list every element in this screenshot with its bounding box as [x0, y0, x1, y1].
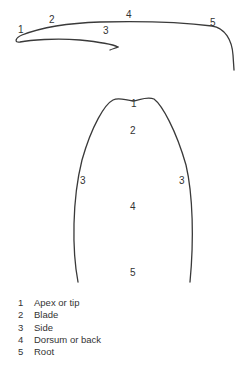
side-label-5: 5 — [210, 17, 216, 28]
top-view: 1 2 3 3 4 5 — [74, 98, 192, 282]
legend-item-dorsum: 4 Dorsum or back — [18, 334, 101, 346]
legend-item-blade: 2 Blade — [18, 309, 101, 321]
side-profile-tip-notch — [110, 47, 118, 50]
legend: 1 Apex or tip 2 Blade 3 Side 4 Dorsum or… — [18, 297, 101, 358]
side-label-3: 3 — [103, 25, 109, 36]
legend-label: Root — [34, 346, 54, 358]
side-view: 1 2 3 4 5 — [16, 9, 234, 70]
legend-label: Side — [34, 322, 53, 334]
top-label-2: 2 — [130, 125, 136, 136]
side-label-2: 2 — [49, 14, 55, 25]
legend-item-root: 5 Root — [18, 346, 101, 358]
side-label-4: 4 — [126, 9, 132, 20]
legend-label: Dorsum or back — [34, 334, 101, 346]
legend-number: 3 — [18, 322, 34, 334]
side-label-1: 1 — [18, 24, 24, 35]
top-label-1: 1 — [131, 98, 137, 109]
legend-number: 5 — [18, 346, 34, 358]
top-label-5: 5 — [130, 267, 136, 278]
top-label-3-right: 3 — [179, 175, 185, 186]
legend-number: 1 — [18, 297, 34, 309]
legend-item-side: 3 Side — [18, 322, 101, 334]
legend-label: Apex or tip — [34, 297, 79, 309]
top-label-3-left: 3 — [80, 175, 86, 186]
legend-item-apex: 1 Apex or tip — [18, 297, 101, 309]
legend-label: Blade — [34, 309, 58, 321]
side-profile-outline — [16, 22, 234, 70]
legend-number: 2 — [18, 309, 34, 321]
top-label-4: 4 — [130, 201, 136, 212]
legend-number: 4 — [18, 334, 34, 346]
